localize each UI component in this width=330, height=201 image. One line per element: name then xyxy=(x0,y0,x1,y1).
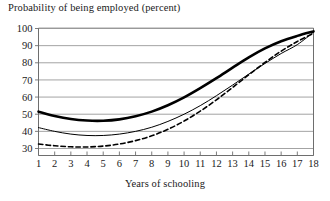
svg-text:13: 13 xyxy=(227,158,238,169)
y-axis-tick-labels: 30405060708090100 xyxy=(17,23,33,154)
svg-text:100: 100 xyxy=(17,23,33,34)
svg-text:12: 12 xyxy=(211,158,222,169)
x-axis-ticks xyxy=(39,152,314,156)
svg-text:40: 40 xyxy=(22,126,33,137)
svg-text:4: 4 xyxy=(84,158,90,169)
svg-text:9: 9 xyxy=(165,158,170,169)
series-line-thick-solid-curve xyxy=(39,31,314,120)
svg-text:5: 5 xyxy=(101,158,106,169)
series-line-dashed-curve xyxy=(39,33,314,147)
plot-frame xyxy=(39,28,314,156)
chart-container: Probability of being employed (percent) … xyxy=(0,0,330,201)
svg-text:8: 8 xyxy=(149,158,154,169)
svg-text:18: 18 xyxy=(308,158,319,169)
svg-text:15: 15 xyxy=(260,158,271,169)
svg-text:90: 90 xyxy=(22,40,33,51)
svg-text:10: 10 xyxy=(179,158,190,169)
x-axis-label: Years of schooling xyxy=(0,178,330,189)
svg-text:2: 2 xyxy=(52,158,57,169)
gridlines xyxy=(39,29,314,149)
svg-text:17: 17 xyxy=(292,158,303,169)
svg-text:50: 50 xyxy=(22,109,33,120)
svg-text:7: 7 xyxy=(133,158,138,169)
y-axis-ticks xyxy=(35,29,39,149)
svg-text:1: 1 xyxy=(36,158,41,169)
svg-text:3: 3 xyxy=(68,158,73,169)
x-axis-tick-labels: 123456789101112131415161718 xyxy=(36,158,319,169)
data-series-lines xyxy=(39,31,314,147)
svg-text:14: 14 xyxy=(244,158,255,169)
svg-text:11: 11 xyxy=(195,158,205,169)
svg-text:80: 80 xyxy=(22,57,33,68)
svg-text:6: 6 xyxy=(117,158,122,169)
svg-text:60: 60 xyxy=(22,92,33,103)
svg-text:30: 30 xyxy=(22,143,33,154)
svg-text:16: 16 xyxy=(276,158,287,169)
chart-plot-area: 30405060708090100 1234567891011121314151… xyxy=(0,0,330,201)
svg-text:70: 70 xyxy=(22,75,33,86)
